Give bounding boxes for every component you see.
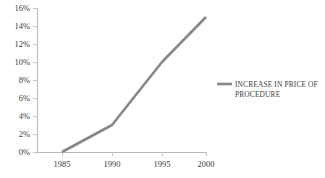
line-chart: 0% 2% 4% 6% 8% 10% 12% 14% 16% 1985 1990… [0,0,325,178]
x-tick-label-1995: 1995 [154,159,171,169]
y-tick-label-2: 2% [19,129,30,139]
y-tick-label-4: 4% [19,111,30,121]
y-tick-label-8: 8% [19,75,30,85]
x-axis-ticks [62,152,206,156]
y-tick-label-12: 12% [14,39,30,49]
y-tick-label-6: 6% [19,93,30,103]
x-tick-label-1985: 1985 [54,159,71,169]
x-tick-label-1990: 1990 [104,159,121,169]
series-line-increase-in-price-of-procedure [62,17,206,152]
x-tick-label-2000: 2000 [198,159,215,169]
y-tick-label-14: 14% [14,21,30,31]
y-tick-label-0: 0% [19,147,30,157]
legend-label-line1: INCREASE IN PRICE OF [235,80,318,89]
y-tick-label-10: 10% [14,57,30,67]
legend-label-line2: PROCEDURE [235,90,281,99]
chart-canvas: 0% 2% 4% 6% 8% 10% 12% 14% 16% 1985 1990… [0,0,325,178]
y-tick-label-16: 16% [14,3,30,13]
y-axis-ticks [33,8,37,152]
chart-legend: INCREASE IN PRICE OF PROCEDURE [217,80,318,99]
